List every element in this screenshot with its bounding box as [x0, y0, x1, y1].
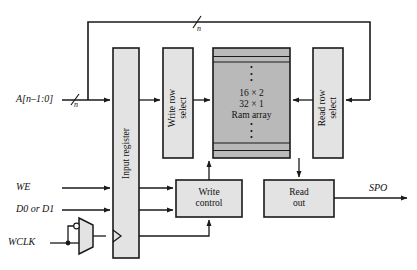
ram-vertical-dots-top-icon: • • • [213, 65, 290, 85]
label-input-register: Input register [121, 94, 132, 214]
label-data-in: D0 or D1 [16, 203, 54, 214]
ram-vertical-dots-bottom-icon: • • • [213, 122, 290, 142]
label-feedback-width: n [197, 24, 201, 33]
label-address-width: n [74, 100, 78, 109]
label-read-row-select: Read row select [317, 73, 339, 143]
diagram-canvas: A[n–1:0] n n WE D0 or D1 WCLK SPO Input … [0, 0, 417, 270]
label-read-out: Read out [264, 187, 334, 209]
mux-body [79, 218, 93, 254]
label-ram-array-line2: 32 × 1 [213, 99, 290, 111]
inversion-bubble-icon [74, 223, 80, 229]
label-ram-array: 16 × 2 [213, 88, 290, 100]
label-write-enable: WE [16, 181, 30, 192]
label-write-control: Write control [176, 187, 242, 209]
diagram-svg [0, 0, 417, 270]
label-address-in: A[n–1:0] [16, 93, 53, 104]
label-write-row-select: Write row select [167, 73, 189, 143]
label-write-clock: WCLK [8, 236, 35, 247]
wire-wclk-feedback-loop [68, 226, 74, 243]
label-output-spo: SPO [369, 182, 387, 193]
wire-clock-to-write-control [139, 220, 209, 236]
